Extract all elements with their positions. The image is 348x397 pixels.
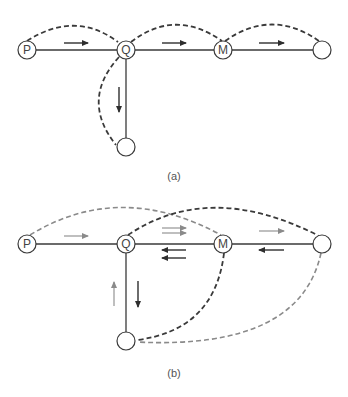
- arc-p-m-b: [30, 208, 221, 236]
- node-label: M: [218, 43, 228, 57]
- node-r-a: [313, 41, 331, 59]
- node-label: Q: [121, 237, 130, 251]
- node-p-b: P: [18, 235, 36, 253]
- node-s-b: [117, 332, 135, 350]
- node-q-a: Q: [117, 41, 135, 59]
- node-label: Q: [121, 43, 130, 57]
- figure-b: P Q M (b): [18, 208, 331, 380]
- arc-p-q-a: [27, 26, 118, 42]
- arc-q-m-a: [131, 25, 222, 42]
- node-q-b: Q: [117, 235, 135, 253]
- figure-a: P Q M (a): [18, 25, 331, 183]
- node-s-a: [117, 138, 135, 156]
- arc-q-r-b: [128, 208, 319, 236]
- arc-m-s-b: [137, 253, 224, 340]
- arc-r-s-b: [137, 253, 321, 343]
- diagram-canvas: P Q M (a): [0, 0, 348, 397]
- node-r-b: [313, 235, 331, 253]
- caption-a: (a): [167, 170, 180, 182]
- node-label: P: [23, 43, 31, 57]
- node-label: M: [218, 237, 228, 251]
- node-p-a: P: [18, 41, 36, 59]
- node-label: P: [23, 237, 31, 251]
- caption-b: (b): [167, 367, 180, 379]
- arc-m-r-a: [225, 25, 319, 42]
- node-m-a: M: [214, 41, 232, 59]
- node-m-b: M: [214, 235, 232, 253]
- arc-q-s-a: [99, 57, 119, 145]
